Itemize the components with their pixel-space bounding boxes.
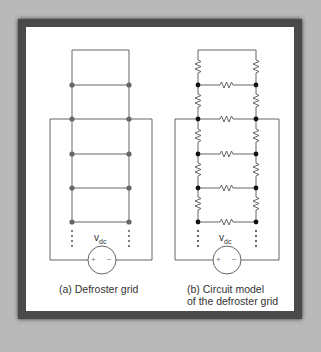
caption-b-line2: of the defroster grid xyxy=(187,295,278,307)
caption-b-line1: (b) Circuit model xyxy=(187,283,264,295)
plus-sign-b: + xyxy=(216,254,221,266)
grid-nodes-a xyxy=(69,82,131,224)
vertical-resistors-b xyxy=(195,57,259,214)
horizontal-resistors-b xyxy=(217,82,237,225)
source-label-a: vdc xyxy=(94,232,106,248)
plus-sign-a: + xyxy=(91,254,96,266)
source-label-b: vdc xyxy=(219,232,231,248)
caption-a: (a) Defroster grid xyxy=(59,283,138,295)
minus-sign-a: − xyxy=(107,254,112,266)
circuit-nodes-b xyxy=(196,83,259,225)
minus-sign-b: − xyxy=(232,254,237,266)
